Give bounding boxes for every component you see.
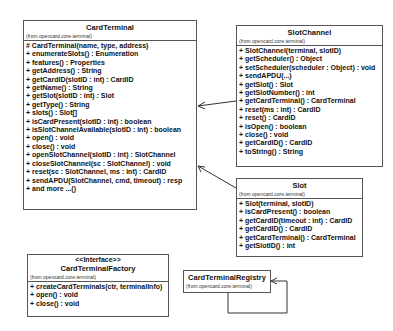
operation: + getCardID() : CardID (239, 139, 380, 147)
association-slotchannel-cardterminal (198, 101, 236, 106)
operation: + reset(sc : SlotChannel, ms : int) : Ca… (26, 168, 194, 176)
class-card-terminal-factory[interactable]: <<Interface>> CardTerminalFactory (from … (27, 254, 169, 317)
operation: + slots() : Slot[] (26, 109, 194, 117)
operation: + open() : void (26, 134, 194, 142)
operation: + getSlotID() : int (239, 242, 360, 250)
operation: + getCardID(timeout : int) : CardID (239, 217, 360, 225)
operation: + createCardTerminals(ctr, terminalInfo) (30, 283, 166, 291)
class-name: CardTerminalFactory (30, 264, 166, 274)
class-package: (from opencard.core.terminal) (239, 191, 360, 198)
operation: + getCardTerminal() : CardTerminal (239, 97, 380, 105)
operation: + features() : Properties (26, 59, 194, 67)
operation: + getSlotNumber() : int (239, 89, 380, 97)
operation: + Slot(terminal, slotID) (239, 200, 360, 208)
class-name: Slot (239, 180, 360, 191)
arrowhead-icon (271, 278, 277, 284)
arrowhead-icon (198, 102, 205, 109)
class-package: (from opencard.core.terminal) (30, 274, 166, 281)
operation: + open() : void (30, 291, 166, 299)
operation: + isOpen() : boolean (239, 123, 380, 131)
operation: + sendAPDU(SlotChannel, cmd, timeout) : … (26, 177, 194, 185)
operation: + close() : void (26, 143, 194, 151)
class-card-terminal-registry[interactable]: CardTerminalRegistry (from opencard.core… (183, 270, 271, 293)
operation: + and more ...() (26, 185, 194, 193)
class-slot[interactable]: Slot (from opencard.core.terminal) + Slo… (236, 178, 363, 257)
class-header: Slot (from opencard.core.terminal) (237, 179, 362, 199)
class-package: (from opencard.core.terminal) (239, 38, 380, 45)
operation: + close() : void (30, 300, 166, 308)
operation: + close() : void (239, 131, 380, 139)
class-stereotype: <<Interface>> (30, 256, 166, 264)
class-package: (from opencard.core.terminal) (186, 283, 268, 290)
class-slot-channel[interactable]: SlotChannel (from opencard.core.terminal… (236, 25, 383, 167)
operation: + getCardID() : CardID (239, 225, 360, 233)
class-name: CardTerminalRegistry (186, 272, 268, 283)
operation: + reset(ms : int) : CardID (239, 106, 380, 114)
class-header: CardTerminalRegistry (from opencard.core… (184, 271, 270, 290)
operation: + reset() : CardID (239, 114, 380, 122)
class-header: CardTerminal (from opencard.core.termina… (24, 21, 196, 41)
operation: + SlotChannel(terminal, slotID) (239, 47, 380, 55)
operation: + getCardID(slotID : int) : CardID (26, 76, 194, 84)
association-slot-cardterminal (198, 166, 236, 188)
class-header: SlotChannel (from opencard.core.terminal… (237, 26, 382, 46)
operation: + toString() : String (239, 148, 380, 156)
operations-list: + createCardTerminals(ctr, terminalInfo)… (28, 282, 168, 309)
class-card-terminal[interactable]: CardTerminal (from opencard.core.termina… (23, 20, 197, 210)
class-name: CardTerminal (26, 22, 194, 33)
operation: + getSlot(slotID : int) : Slot (26, 92, 194, 100)
operation: + getCardTerminal() : CardTerminal (239, 234, 360, 242)
operations-list: # CardTerminal(name, type, address) + en… (24, 41, 196, 194)
operation: + sendAPDU(...) (239, 72, 380, 80)
class-name: SlotChannel (239, 27, 380, 38)
class-header: <<Interface>> CardTerminalFactory (from … (28, 255, 168, 282)
operation: + getAddress() : String (26, 67, 194, 75)
class-package: (from opencard.core.terminal) (26, 33, 194, 40)
operation: + getType() : String (26, 101, 194, 109)
operation: + enumerateSlots() : Enumeration (26, 50, 194, 58)
operations-list: + SlotChannel(terminal, slotID) + getSch… (237, 46, 382, 157)
operation: # CardTerminal(name, type, address) (26, 42, 194, 50)
operation: + getSlot() : Slot (239, 81, 380, 89)
operations-list: + Slot(terminal, slotID) + isCardPresent… (237, 199, 362, 251)
operation: + isSlotChannelAvailable(slotID : int) :… (26, 126, 194, 134)
operation: + isCardPresent() : boolean (239, 208, 360, 216)
operation: + setScheduler(scheduler : Object) : voi… (239, 64, 380, 72)
operation: + openSlotChannel(slotID : int) : SlotCh… (26, 151, 194, 159)
operation: + isCardPresent(slotID : int) : boolean (26, 118, 194, 126)
operation: + closeSlotChannel(sc : SlotChannel) : v… (26, 160, 194, 168)
operation: + getScheduler() : Object (239, 55, 380, 63)
arrowhead-icon (198, 166, 205, 172)
operation: + getName() : String (26, 84, 194, 92)
